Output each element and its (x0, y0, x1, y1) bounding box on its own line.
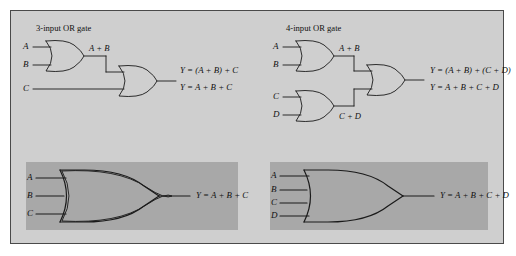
four-input-pin-b: B (273, 60, 279, 69)
three-input-symbol-pin-c: C (27, 209, 33, 218)
three-input-equation-1: Y = (A + B) + C (180, 66, 238, 75)
four-input-symbol-pin-b: B (271, 185, 277, 194)
or-gate-figure: 3-input OR gate A B C A + B Y = (A + B) … (0, 0, 516, 256)
four-input-symbol-pin-d: D (271, 211, 278, 220)
three-input-node-label: A + B (89, 44, 109, 53)
three-input-pin-a: A (23, 42, 29, 51)
four-input-symbol-output-equation: Y = A + B + C + D (440, 191, 509, 200)
three-input-heading: 3-input OR gate (36, 24, 91, 33)
four-input-heading: 4-input OR gate (286, 24, 341, 33)
four-input-pin-a: A (273, 42, 279, 51)
four-input-symbol-pin-a: A (271, 171, 277, 180)
three-input-pin-b: B (23, 60, 29, 69)
four-input-pin-d: D (273, 110, 280, 119)
three-input-symbol-pin-b: B (27, 191, 33, 200)
three-input-symbol-output-equation: Y = A + B + C (196, 191, 248, 200)
four-input-node-label-ab: A + B (339, 44, 359, 53)
four-input-pin-c: C (273, 92, 279, 101)
four-input-equation-2: Y = A + B + C + D (430, 83, 499, 92)
four-input-equation-1: Y = (A + B) + (C + D) (430, 66, 511, 75)
three-input-symbol-pin-a: A (27, 173, 33, 182)
three-input-equation-2: Y = A + B + C (180, 83, 232, 92)
schematic-lines (0, 0, 516, 256)
four-input-node-label-cd: C + D (339, 112, 361, 121)
four-input-symbol-pin-c: C (271, 198, 277, 207)
three-input-pin-c: C (23, 84, 29, 93)
